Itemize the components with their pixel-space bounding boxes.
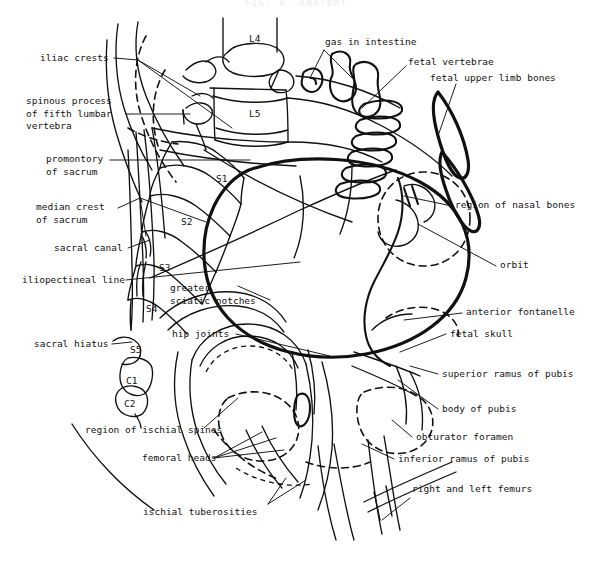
label-body-of-pubis: body of pubis: [442, 403, 516, 416]
label-promontory-of-sacrum: promontory of sacrum: [46, 153, 103, 178]
vertebra-marker-l5: L5: [249, 108, 260, 119]
label-iliopectineal-line: iliopectineal line: [22, 274, 125, 287]
label-median-crest-of-sacrum: median crest of sacrum: [36, 201, 105, 226]
label-fetal-upper-limb-bones: fetal upper limb bones: [430, 72, 556, 85]
label-region-of-ischial-spines: region of ischial spines: [85, 424, 222, 437]
label-femoral-heads: femoral heads: [142, 452, 216, 465]
fetal-skull-group: [204, 159, 470, 366]
vertebra-marker-l4: L4: [249, 33, 260, 44]
figure-canvas: FIG. 6. ANATOMY: [0, 0, 593, 566]
label-anterior-fontanelle: anterior fontanelle: [466, 306, 575, 319]
vertebra-marker-c1: C1: [126, 375, 137, 386]
label-fetal-skull: fetal skull: [450, 328, 513, 341]
label-fetal-vertebrae: fetal vertebrae: [408, 56, 494, 69]
label-region-of-nasal-bones: region of nasal bones: [455, 199, 575, 212]
label-sacral-canal: sacral canal: [54, 242, 123, 255]
vertebra-marker-s4: S4: [146, 303, 157, 314]
label-hip-joints: hip joints: [172, 328, 229, 341]
label-greater-sciatic-notches: greater sciatic notches: [170, 282, 256, 307]
label-obturator-foramen: obturator foramen: [416, 431, 513, 444]
label-orbit: orbit: [500, 259, 529, 272]
lumbar-vertebrae-group: [183, 18, 294, 150]
label-iliac-crests: iliac crests: [40, 52, 109, 65]
label-superior-ramus-of-pubis: superior ramus of pubis: [442, 368, 574, 381]
label-ischial-tuberosities: ischial tuberosities: [143, 506, 257, 519]
label-right-and-left-femurs: right and left femurs: [412, 483, 532, 496]
label-sacral-hiatus: sacral hiatus: [34, 338, 108, 351]
label-spinous-process-fifth-lumbar-vertebra: spinous process of fifth lumbar vertebra: [26, 95, 112, 133]
label-inferior-ramus-of-pubis: inferior ramus of pubis: [398, 453, 530, 466]
vertebra-marker-s5: S5: [130, 344, 141, 355]
vertebra-marker-c2: C2: [124, 398, 135, 409]
vertebra-marker-s3: S3: [159, 262, 170, 273]
vertebra-marker-s1: S1: [216, 173, 227, 184]
label-gas-in-intestine: gas in intestine: [325, 36, 417, 49]
leader-lines-group: [110, 50, 496, 520]
vertebra-marker-s2: S2: [181, 216, 192, 227]
